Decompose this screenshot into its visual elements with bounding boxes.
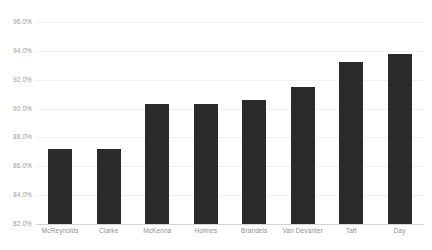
bar-series — [36, 22, 424, 224]
y-axis-tick-label: 92.0% — [0, 76, 32, 83]
bar — [388, 54, 412, 224]
x-axis-tick-label: Van Devanter — [279, 227, 328, 234]
bar-slot — [133, 22, 182, 224]
x-axis: McReynoldsClarkeMcKennaHolmesBrandeisVan… — [36, 227, 424, 234]
x-axis-tick-label: McReynolds — [36, 227, 85, 234]
y-axis-tick-label: 84.0% — [0, 191, 32, 198]
x-axis-tick-label: McKenna — [133, 227, 182, 234]
bar-chart: 96.0%94.0%92.0%90.0%88.0%86.0%84.0%82.0%… — [0, 0, 432, 250]
bar — [291, 87, 315, 224]
bar — [48, 149, 72, 224]
bar-slot — [376, 22, 425, 224]
bar — [339, 62, 363, 224]
bar — [145, 104, 169, 224]
x-axis-tick-label: Clarke — [85, 227, 134, 234]
x-axis-tick-label: Taft — [327, 227, 376, 234]
bar-slot — [85, 22, 134, 224]
y-axis-tick-label: 94.0% — [0, 47, 32, 54]
axis-baseline — [36, 224, 424, 225]
bar-slot — [230, 22, 279, 224]
y-axis-tick-label: 86.0% — [0, 162, 32, 169]
y-axis-tick-label: 82.0% — [0, 220, 32, 227]
y-axis-tick-label: 88.0% — [0, 133, 32, 140]
bar — [242, 100, 266, 224]
x-axis-tick-label: Brandeis — [230, 227, 279, 234]
y-axis-tick-label: 96.0% — [0, 18, 32, 25]
bar — [97, 149, 121, 224]
bar-slot — [36, 22, 85, 224]
bar-slot — [327, 22, 376, 224]
x-axis-tick-label: Day — [376, 227, 425, 234]
bar — [194, 104, 218, 224]
y-axis-tick-label: 90.0% — [0, 105, 32, 112]
x-axis-tick-label: Holmes — [182, 227, 231, 234]
bar-slot — [182, 22, 231, 224]
bar-slot — [279, 22, 328, 224]
